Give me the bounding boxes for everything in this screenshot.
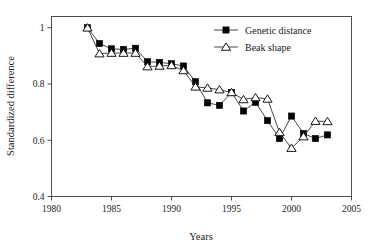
data-series-layer: [83, 24, 332, 152]
line-chart: 198019851990199520002005 0.40.60.81 Year…: [0, 0, 380, 250]
y-tick-label: 0.4: [33, 192, 45, 202]
x-tick-label: 2005: [342, 204, 361, 214]
data-point-square: [288, 113, 294, 119]
data-point-triangle: [311, 117, 320, 124]
x-tick-label: 1990: [162, 204, 181, 214]
y-tick-label: 0.6: [33, 136, 45, 146]
data-point-square: [96, 40, 102, 46]
x-tick-label: 2000: [282, 204, 301, 214]
y-tick-label: 1: [40, 23, 45, 33]
legend-label-1: Genetic distance: [245, 25, 312, 36]
y-axis-tick-labels: 0.40.60.81: [33, 23, 45, 202]
data-point-square: [264, 117, 270, 123]
data-point-square: [312, 135, 318, 141]
data-point-square: [240, 108, 246, 114]
data-point-square: [324, 132, 330, 138]
series-2: [83, 24, 332, 152]
y-tick-label: 0.8: [33, 79, 45, 89]
data-point-square: [204, 100, 210, 106]
x-axis-tick-labels: 198019851990199520002005: [42, 204, 361, 214]
x-axis-ticks: [52, 197, 352, 201]
data-point-triangle: [251, 93, 260, 100]
x-tick-label: 1995: [222, 204, 241, 214]
y-axis-title: Standardized difference: [5, 56, 16, 156]
chart-legend: Genetic distanceBeak shape: [214, 25, 312, 53]
data-point-square: [223, 27, 229, 33]
chart-figure: 198019851990199520002005 0.40.60.81 Year…: [0, 0, 380, 250]
y-axis-ticks: [48, 28, 52, 197]
data-point-square: [276, 135, 282, 141]
x-axis-title: Years: [189, 231, 212, 242]
data-point-square: [216, 102, 222, 108]
x-tick-label: 1980: [42, 204, 61, 214]
legend-label-2: Beak shape: [245, 42, 291, 53]
x-tick-label: 1985: [102, 204, 121, 214]
